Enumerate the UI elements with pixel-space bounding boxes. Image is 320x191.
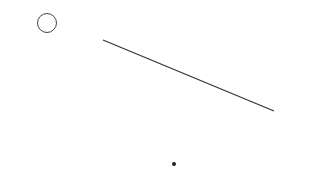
problem-number-badge: [37, 13, 57, 33]
line-segment-a: [103, 40, 274, 111]
point-i: [172, 162, 176, 166]
